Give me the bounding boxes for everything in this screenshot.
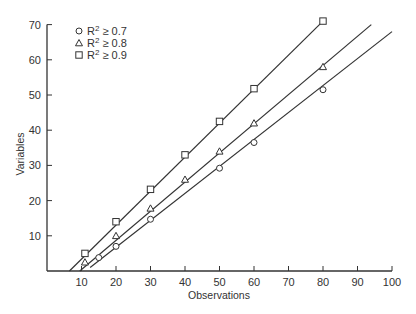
triangle-marker [147,205,154,211]
y-tick-label: 30 [29,159,41,171]
legend-entry: R2 ≥ 0.8 [87,36,127,49]
y-tick-label: 40 [29,124,41,136]
legend-square-icon [76,52,82,58]
legend-triangle-icon [76,40,83,46]
x-tick-label: 60 [248,276,260,288]
x-tick-label: 20 [110,276,122,288]
triangle-marker [251,120,258,126]
circle-marker [96,255,102,261]
triangle-marker [81,259,88,265]
circle-marker [113,243,119,249]
legend-entry: R2 ≥ 0.7 [87,24,127,37]
x-tick-label: 80 [317,276,329,288]
square-marker [320,18,326,24]
x-axis-label: Observations [188,289,250,301]
square-marker [251,85,257,91]
square-marker [82,250,88,256]
square-marker [182,152,188,158]
x-tick-label: 30 [144,276,156,288]
legend-entry: R2 ≥ 0.9 [87,48,127,61]
y-tick-label: 10 [29,230,41,242]
axes: 10203040506070809010010203040506070 [29,19,401,288]
square-marker [113,219,119,225]
x-tick-label: 50 [213,276,225,288]
circle-marker [217,165,223,171]
y-tick-label: 20 [29,195,41,207]
x-tick-label: 90 [351,276,363,288]
x-tick-label: 40 [179,276,191,288]
y-tick-label: 60 [29,54,41,66]
fit-line-circle [90,32,392,268]
circle-marker [251,140,257,146]
circle-marker [320,87,326,93]
y-tick-label: 50 [29,89,41,101]
legend-circle-icon [76,28,82,34]
x-tick-label: 100 [383,276,401,288]
y-tick-label: 70 [29,19,41,31]
x-tick-label: 10 [75,276,87,288]
triangle-marker [320,63,327,69]
y-axis-label: Variables [14,133,26,176]
triangle-marker [182,176,189,182]
triangle-marker [113,232,120,238]
scatter-line-chart: 10203040506070809010010203040506070 R2 ≥… [0,0,416,314]
circle-marker [148,216,154,222]
legend: R2 ≥ 0.7R2 ≥ 0.8R2 ≥ 0.9 [76,24,127,61]
square-marker [216,118,222,124]
square-marker [147,186,153,192]
fit-line-triangle [80,25,372,271]
x-tick-label: 70 [282,276,294,288]
